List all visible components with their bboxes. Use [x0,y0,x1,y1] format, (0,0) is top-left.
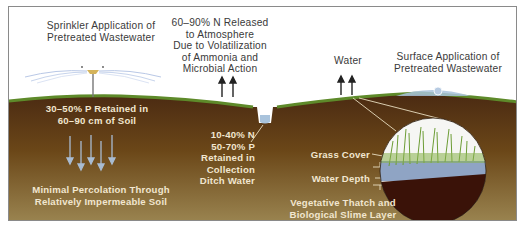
label-line: Pretreated Wastewater [21,32,181,44]
surface-application-label: Surface Application of Pretreated Wastew… [383,51,513,74]
diagram-frame: Sprinkler Application of Pretreated Wast… [8,6,517,221]
phosphorus-retained-label: 30–50% P Retained in 60–90 cm of Soil [27,103,167,126]
label-line: Microbial Action [161,63,279,75]
label-line: Retained in [195,152,255,164]
volatilization-label: 60–90% N Released to Atmosphere Due to V… [161,17,279,75]
label-line: Relatively Impermeable Soil [23,196,179,208]
label-line: Surface Application of [383,51,513,63]
label-line: 60–90% N Released [161,17,279,29]
sprinkler-application-label: Sprinkler Application of Pretreated Wast… [21,20,181,43]
surface-water-mound [396,90,471,96]
water-depth-label: Water Depth [305,173,370,185]
ditch-retention-label: 10-40% N 50-70% P Retained in Collection… [195,129,255,187]
label-line: 60–90 cm of Soil [27,115,167,127]
label-line: Due to Volatilization [161,40,279,52]
ditch-water [260,115,270,124]
thatch-slime-layer-label: Vegetative Thatch and Biological Slime L… [277,197,409,220]
label-line: Minimal Percolation Through [23,184,179,196]
label-line: Vegetative Thatch and [277,197,409,209]
label-line: Ditch Water [195,175,255,187]
sprinkler-icon [25,66,161,97]
water-label: Water [328,55,368,67]
label-line: 30–50% P Retained in [27,103,167,115]
arrow-up-icon [219,76,355,97]
percolation-label: Minimal Percolation Through Relatively I… [23,184,179,207]
label-line: to Atmosphere [161,29,279,41]
ditch-phosphorus-value: 50-70% P [195,141,255,153]
ditch-nitrogen-value: 10-40% N [195,129,255,141]
label-line: of Ammonia and [161,52,279,64]
label-line: Pretreated Wastewater [383,63,513,75]
surface-outlet-icon [434,87,442,95]
label-line: Sprinkler Application of [21,20,181,32]
label-line: Biological Slime Layer [277,209,409,221]
grass-cover-label: Grass Cover [305,149,370,161]
label-line: Collection [195,164,255,176]
